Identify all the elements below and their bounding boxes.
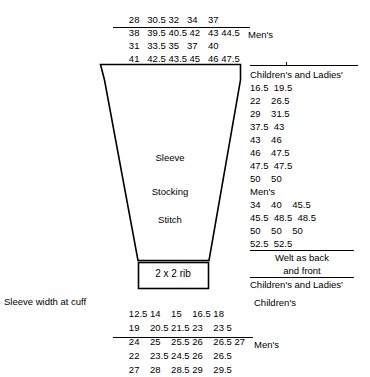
measurement-row: 47.5 47.5	[250, 159, 368, 172]
measurement-row: 31 33.5 35 37 40 Men's	[113, 28, 363, 41]
measurement-row: 24 25 25.5 26 26.5 27	[113, 324, 368, 338]
label-rib: 2 x 2 rib	[141, 268, 205, 279]
mens-header: Men's	[250, 185, 368, 198]
childrens-label: Children's	[254, 296, 296, 309]
header-rule-line	[250, 65, 358, 66]
label-sleeve: Sleeve	[110, 152, 230, 163]
children-ladies-footer: Children's and Ladies'	[250, 278, 368, 291]
measurement-row: 19 20.5 21.5 23 23 5	[113, 310, 368, 324]
measurement-row: 52.5 52.5	[250, 237, 368, 250]
top-measurements-block: 28 30.5 32 34 37 38 39.5 40.5 42 43 44.5…	[113, 2, 363, 54]
measurement-row: 38 39.5 40.5 42 43 44.5	[113, 15, 363, 28]
measurement-row: 46 47.5	[250, 146, 368, 159]
measurement-row: 50 50	[250, 172, 368, 185]
measurement-row: 27 28 28.5 29 29.5	[113, 352, 368, 366]
mens-label: Men's	[254, 338, 279, 351]
children-ladies-header: Children's and Ladies'	[250, 68, 368, 81]
measurement-row: 22 26.5	[250, 94, 368, 107]
measurement-row: 16.5 19.5	[250, 81, 368, 94]
header-rule-tick	[286, 62, 287, 66]
measurement-row: 22 23.5 24.5 26 26.5 Men's	[113, 338, 368, 352]
measurement-values: 41 42.5 43.5 45 46 47.5	[129, 53, 240, 64]
measurement-row: 12.5 14 15 16.5 18 Children's	[113, 296, 368, 310]
measurement-row: 37.5 43	[250, 120, 368, 133]
label-stitch: Stitch	[110, 214, 230, 225]
children-header-rule	[250, 62, 368, 68]
welt-line-1: Welt as back	[250, 251, 354, 264]
measurement-row: 28 30.5 32 34 37	[113, 2, 363, 15]
right-measurements-block: Children's and Ladies' 16.5 19.5 22 26.5…	[250, 62, 368, 291]
measurement-row: 41 42.5 43.5 45 46 47.5	[113, 41, 363, 54]
measurement-row: 50 50 50	[250, 224, 368, 237]
measurement-values: 27 28 28.5 29 29.5	[129, 364, 232, 375]
measurement-row: 29 31.5	[250, 107, 368, 120]
measurement-row: 34 40 45.5	[250, 198, 368, 211]
measurement-row: 45.5 48.5 48.5	[250, 211, 368, 224]
label-stocking: Stocking	[110, 186, 230, 197]
bottom-measurements-block: 12.5 14 15 16.5 18 Children's 19 20.5 21…	[113, 296, 368, 366]
measurement-row: 43 46	[250, 133, 368, 146]
mens-label: Men's	[248, 28, 273, 41]
welt-line-2: and front	[250, 264, 354, 277]
sleeve-width-at-cuff-label: Sleeve width at cuff	[4, 296, 86, 307]
